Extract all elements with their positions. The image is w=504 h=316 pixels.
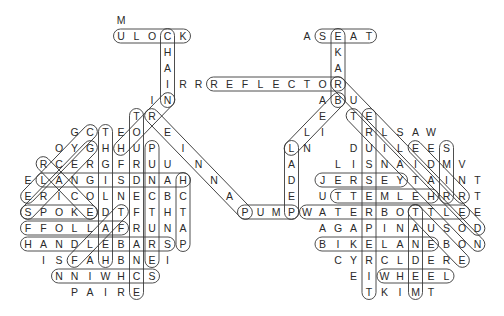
grid-letter[interactable]: S: [440, 141, 454, 155]
grid-letter[interactable]: E: [424, 141, 438, 155]
grid-letter[interactable]: N: [68, 173, 82, 187]
grid-letter[interactable]: H: [161, 205, 175, 219]
grid-letter[interactable]: F: [238, 77, 252, 91]
grid-letter[interactable]: O: [52, 205, 66, 219]
grid-letter[interactable]: Y: [68, 141, 82, 155]
grid-letter[interactable]: N: [192, 157, 206, 171]
grid-letter[interactable]: L: [378, 125, 392, 139]
grid-letter[interactable]: N: [145, 173, 159, 187]
grid-letter[interactable]: N: [207, 173, 221, 187]
grid-letter[interactable]: N: [161, 93, 175, 107]
grid-letter[interactable]: C: [378, 253, 392, 267]
grid-letter[interactable]: I: [99, 173, 113, 187]
grid-letter[interactable]: L: [68, 221, 82, 235]
grid-letter[interactable]: U: [161, 157, 175, 171]
grid-letter[interactable]: Y: [347, 253, 361, 267]
grid-letter[interactable]: V: [455, 157, 469, 171]
grid-letter[interactable]: L: [393, 253, 407, 267]
grid-letter[interactable]: N: [114, 189, 128, 203]
grid-letter[interactable]: T: [130, 109, 144, 123]
grid-letter[interactable]: T: [331, 205, 345, 219]
grid-letter[interactable]: T: [347, 189, 361, 203]
grid-letter[interactable]: G: [99, 157, 113, 171]
grid-letter[interactable]: E: [424, 253, 438, 267]
grid-letter[interactable]: F: [114, 221, 128, 235]
grid-letter[interactable]: U: [424, 221, 438, 235]
grid-letter[interactable]: G: [331, 221, 345, 235]
grid-letter[interactable]: A: [52, 173, 66, 187]
grid-letter[interactable]: D: [285, 173, 299, 187]
grid-letter[interactable]: R: [440, 253, 454, 267]
grid-letter[interactable]: S: [440, 221, 454, 235]
grid-letter[interactable]: S: [316, 29, 330, 43]
grid-letter[interactable]: E: [471, 205, 485, 219]
grid-letter[interactable]: H: [176, 173, 190, 187]
grid-letter[interactable]: B: [161, 189, 175, 203]
grid-letter[interactable]: R: [176, 77, 190, 91]
grid-letter[interactable]: H: [99, 253, 113, 267]
grid-letter[interactable]: N: [68, 269, 82, 283]
grid-letter[interactable]: A: [393, 237, 407, 251]
grid-letter[interactable]: B: [114, 237, 128, 251]
grid-letter[interactable]: K: [176, 29, 190, 43]
grid-letter[interactable]: E: [316, 109, 330, 123]
grid-letter[interactable]: O: [52, 141, 66, 155]
grid-letter[interactable]: A: [424, 173, 438, 187]
grid-letter[interactable]: A: [347, 29, 361, 43]
grid-letter[interactable]: B: [316, 237, 330, 251]
grid-letter[interactable]: E: [130, 189, 144, 203]
grid-letter[interactable]: E: [21, 173, 35, 187]
grid-letter[interactable]: I: [161, 77, 175, 91]
grid-letter[interactable]: O: [455, 237, 469, 251]
grid-letter[interactable]: U: [347, 93, 361, 107]
grid-letter[interactable]: P: [362, 221, 376, 235]
grid-letter[interactable]: O: [316, 77, 330, 91]
grid-letter[interactable]: G: [68, 125, 82, 139]
grid-letter[interactable]: M: [269, 205, 283, 219]
grid-letter[interactable]: C: [130, 269, 144, 283]
grid-letter[interactable]: T: [362, 29, 376, 43]
grid-letter[interactable]: U: [145, 157, 159, 171]
grid-letter[interactable]: S: [393, 125, 407, 139]
grid-letter[interactable]: I: [83, 269, 97, 283]
grid-letter[interactable]: L: [99, 189, 113, 203]
grid-letter[interactable]: U: [130, 141, 144, 155]
grid-letter[interactable]: I: [145, 93, 159, 107]
grid-letter[interactable]: A: [316, 93, 330, 107]
grid-letter[interactable]: R: [145, 237, 159, 251]
grid-letter[interactable]: E: [223, 77, 237, 91]
grid-letter[interactable]: A: [285, 157, 299, 171]
grid-letter[interactable]: B: [378, 205, 392, 219]
grid-letter[interactable]: N: [409, 237, 423, 251]
grid-letter[interactable]: L: [37, 173, 51, 187]
grid-letter[interactable]: I: [362, 269, 376, 283]
grid-letter[interactable]: E: [362, 189, 376, 203]
grid-letter[interactable]: A: [223, 189, 237, 203]
grid-letter[interactable]: F: [37, 221, 51, 235]
grid-letter[interactable]: A: [83, 285, 97, 299]
grid-letter[interactable]: E: [362, 109, 376, 123]
grid-letter[interactable]: E: [161, 125, 175, 139]
grid-letter[interactable]: S: [362, 157, 376, 171]
grid-letter[interactable]: L: [130, 29, 144, 43]
grid-letter[interactable]: K: [378, 285, 392, 299]
grid-letter[interactable]: C: [176, 189, 190, 203]
grid-letter[interactable]: A: [161, 61, 175, 75]
grid-letter[interactable]: A: [83, 253, 97, 267]
grid-letter[interactable]: I: [347, 157, 361, 171]
grid-letter[interactable]: T: [300, 77, 314, 91]
grid-letter[interactable]: I: [393, 285, 407, 299]
grid-letter[interactable]: E: [409, 269, 423, 283]
grid-letter[interactable]: N: [52, 237, 66, 251]
grid-letter[interactable]: N: [161, 221, 175, 235]
grid-letter[interactable]: Y: [393, 173, 407, 187]
grid-letter[interactable]: N: [300, 141, 314, 155]
grid-letter[interactable]: I: [37, 253, 51, 267]
grid-letter[interactable]: C: [145, 189, 159, 203]
grid-letter[interactable]: F: [68, 253, 82, 267]
grid-letter[interactable]: D: [68, 237, 82, 251]
grid-letter[interactable]: T: [331, 189, 345, 203]
grid-letter[interactable]: L: [300, 125, 314, 139]
grid-letter[interactable]: P: [68, 285, 82, 299]
grid-letter[interactable]: L: [331, 157, 345, 171]
